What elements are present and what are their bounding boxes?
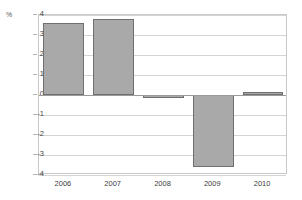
x-tick-label: 2006 [38,179,88,188]
bar-chart-figure: % 43210-1-2-3-420062007200820092010 [0,0,302,200]
gridline [39,175,286,176]
bar-slot [188,15,238,173]
y-tick-mark [33,174,37,175]
y-tick-mark [33,54,37,55]
y-tick-mark [33,74,37,75]
x-tick-label: 2008 [138,179,188,188]
bar[interactable] [93,19,134,95]
zero-line [39,95,286,96]
bars-layer [39,15,286,173]
x-tick-label: 2007 [88,179,138,188]
x-tick-label: 2010 [237,179,287,188]
y-tick-mark [33,34,37,35]
bar-slot [139,15,189,173]
y-tick-mark [33,134,37,135]
y-tick-mark [33,14,37,15]
plot-area [38,14,287,174]
bar-slot [39,15,89,173]
bar[interactable] [193,95,234,167]
chart-title [6,0,166,3]
y-tick-mark [33,154,37,155]
y-tick-mark [33,94,37,95]
bar-slot [238,15,288,173]
y-tick-mark [33,114,37,115]
bar-slot [89,15,139,173]
x-tick-label: 2009 [187,179,237,188]
bar[interactable] [43,23,84,95]
y-axis-unit-label: % [6,11,12,19]
